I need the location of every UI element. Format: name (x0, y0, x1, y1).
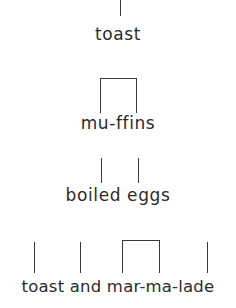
row-2-label: mu-ffins (0, 113, 236, 133)
tick-mark (34, 242, 35, 273)
bracket-mark (122, 240, 160, 273)
linguistics-derivation-figure: toast mu-ffins boiled eggs toast and mar… (0, 0, 236, 308)
tick-mark (80, 242, 81, 273)
tick-mark (101, 158, 102, 183)
tick-mark (120, 0, 121, 16)
row-4-label: toast and mar-ma-lade (0, 277, 236, 296)
tick-mark (138, 158, 139, 183)
row-1-label: toast (0, 24, 236, 44)
bracket-mark (100, 78, 137, 113)
row-3-label: boiled eggs (0, 185, 236, 205)
tick-mark (207, 242, 208, 273)
